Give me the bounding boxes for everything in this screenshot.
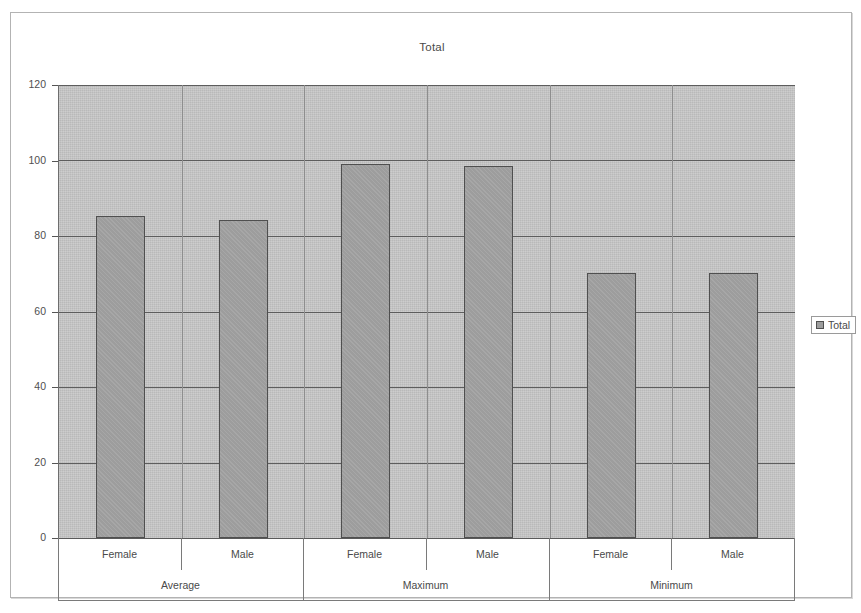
bar xyxy=(341,164,390,538)
category-separator xyxy=(672,85,673,538)
y-axis-tick-label: 120 xyxy=(12,78,46,90)
chart-frame: Total 020406080100120 FemaleMaleFemaleMa… xyxy=(10,12,852,598)
x-axis-group-separator xyxy=(303,538,304,600)
y-axis-tick-label: 0 xyxy=(12,531,46,543)
y-axis-tick-label: 80 xyxy=(12,229,46,241)
x-axis-sub-separator xyxy=(181,538,182,570)
bar xyxy=(587,273,636,538)
bar-texture xyxy=(342,165,389,537)
y-axis-tick xyxy=(52,312,58,313)
square-swatch-icon xyxy=(816,321,824,329)
x-axis-group-label: Average xyxy=(58,570,303,600)
x-axis-group-label: Maximum xyxy=(303,570,548,600)
y-axis-line xyxy=(58,85,59,540)
bar-texture xyxy=(710,274,757,537)
y-axis-tick-label: 100 xyxy=(12,154,46,166)
y-axis-tick-label: 60 xyxy=(12,305,46,317)
y-axis-tick-label: 20 xyxy=(12,456,46,468)
x-axis-group-separator xyxy=(794,538,795,600)
y-axis-tick xyxy=(52,85,58,86)
category-separator xyxy=(550,85,551,538)
chart-screenshot: Total 020406080100120 FemaleMaleFemaleMa… xyxy=(0,0,861,613)
x-axis-group-separator xyxy=(549,538,550,600)
x-axis-sub-label: Female xyxy=(549,538,672,570)
chart-title: Total xyxy=(11,41,853,53)
bar xyxy=(464,166,513,538)
bar-texture xyxy=(588,274,635,537)
x-axis-sub-label: Female xyxy=(303,538,426,570)
x-axis-sub-label: Male xyxy=(671,538,794,570)
x-axis-group-separator xyxy=(58,538,59,600)
x-axis-sub-label: Male xyxy=(181,538,304,570)
category-separator xyxy=(182,85,183,538)
bar-texture xyxy=(220,221,267,537)
x-axis-sub-separator xyxy=(426,538,427,570)
y-axis-tick xyxy=(52,463,58,464)
x-axis-group-label: Minimum xyxy=(549,570,794,600)
x-axis: FemaleMaleFemaleMaleFemaleMale AverageMa… xyxy=(58,538,795,600)
bar xyxy=(96,216,145,538)
legend: Total xyxy=(811,316,856,334)
bar-texture xyxy=(465,167,512,537)
y-axis-tick xyxy=(52,161,58,162)
x-axis-baseline xyxy=(58,600,795,601)
x-axis-sub-label: Male xyxy=(426,538,549,570)
plot-area xyxy=(58,85,795,538)
legend-entry-label: Total xyxy=(828,319,850,331)
bar xyxy=(219,220,268,538)
category-separator xyxy=(304,85,305,538)
y-axis-tick xyxy=(52,236,58,237)
category-separator xyxy=(427,85,428,538)
x-axis-sub-label: Female xyxy=(58,538,181,570)
y-axis-tick-label: 40 xyxy=(12,380,46,392)
y-axis-tick xyxy=(52,387,58,388)
x-axis-sub-separator xyxy=(671,538,672,570)
bar xyxy=(709,273,758,538)
x-axis-subcategory-row: FemaleMaleFemaleMaleFemaleMale xyxy=(58,538,795,570)
x-axis-group-row: AverageMaximumMinimum xyxy=(58,570,795,600)
bar-texture xyxy=(97,217,144,537)
